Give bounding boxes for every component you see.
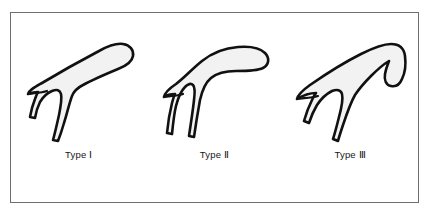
curved-acromion-icon: [150, 19, 280, 147]
panel-type-1: Type Ⅰ: [11, 13, 147, 202]
figure-type-3: [285, 19, 415, 147]
curved-acromion-body: [164, 47, 268, 137]
figure-type-1: [14, 19, 144, 147]
figure-root: Type Ⅰ Type Ⅱ Type Ⅲ: [0, 0, 429, 217]
panel-label-type-1: Type Ⅰ: [65, 149, 92, 161]
hooked-acromion-icon: [285, 19, 415, 147]
panel-label-type-2: Type Ⅱ: [200, 149, 229, 161]
flat-acromion-icon: [14, 19, 144, 147]
hooked-acromion-body: [297, 44, 405, 141]
panel-type-3: Type Ⅲ: [282, 13, 418, 202]
panel-label-type-3: Type Ⅲ: [334, 149, 365, 161]
figure-type-2: [150, 19, 280, 147]
panel-row: Type Ⅰ Type Ⅱ Type Ⅲ: [11, 13, 418, 202]
panel-type-2: Type Ⅱ: [147, 13, 283, 202]
